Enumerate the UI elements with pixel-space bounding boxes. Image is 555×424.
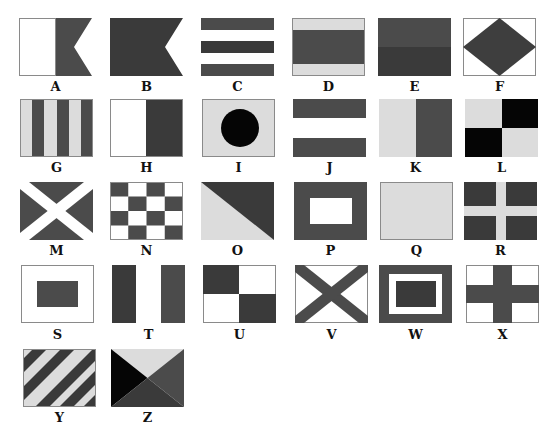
- flag-label-o: O: [201, 244, 274, 258]
- flag-label-c: C: [201, 80, 274, 94]
- flag-c: [201, 18, 274, 76]
- flag-h: [110, 99, 183, 157]
- flag-i: [202, 99, 275, 157]
- flag-label-l: K: [379, 161, 452, 175]
- flag-label-z: Z: [111, 411, 184, 424]
- flag-e: [378, 18, 451, 76]
- flag-u: [203, 265, 276, 323]
- flag-q: [380, 182, 453, 240]
- flag-v: [295, 265, 368, 323]
- flag-a: [19, 18, 92, 76]
- flag-label-h: H: [110, 161, 183, 175]
- flag-g: [20, 99, 93, 157]
- flag-label-w: W: [379, 328, 452, 342]
- flag-label-b: B: [110, 80, 183, 94]
- flag-r: [464, 182, 537, 240]
- flag-m: [20, 182, 93, 240]
- flag-label-t: T: [112, 328, 185, 342]
- flag-label-n: N: [110, 244, 183, 258]
- flag-o: [201, 182, 274, 240]
- flag-label-e: E: [378, 80, 451, 94]
- flag-label-r: R: [464, 244, 537, 258]
- flag-j: [293, 99, 366, 157]
- flag-label-a: A: [19, 80, 92, 94]
- flag-x: [466, 265, 539, 323]
- flag-s: [21, 265, 94, 323]
- flag-p: [294, 182, 367, 240]
- flag-label-j: J: [293, 161, 366, 175]
- flag-k: [379, 99, 452, 157]
- flag-label-y: Y: [23, 411, 96, 424]
- flag-label-i: I: [202, 161, 275, 175]
- flag-f: [463, 18, 536, 76]
- flag-label-u: U: [203, 328, 276, 342]
- flag-n: [110, 182, 183, 240]
- flag-w: [379, 265, 452, 323]
- flag-y: [23, 349, 96, 407]
- flag-z: [111, 349, 184, 407]
- flag-label-f: F: [463, 80, 536, 94]
- flag-label-l: L: [465, 161, 538, 175]
- flag-l: [465, 99, 538, 157]
- flag-label-q: Q: [380, 244, 453, 258]
- flag-label-x: X: [466, 328, 539, 342]
- flag-label-p: P: [294, 244, 367, 258]
- flag-t: [112, 265, 185, 323]
- flag-label-v: V: [295, 328, 368, 342]
- flag-label-d: D: [292, 80, 365, 94]
- flag-label-g: G: [20, 161, 93, 175]
- flag-d: [292, 18, 365, 76]
- flag-label-m: M: [20, 244, 93, 258]
- flag-b: [110, 18, 183, 76]
- flag-label-s: S: [21, 328, 94, 342]
